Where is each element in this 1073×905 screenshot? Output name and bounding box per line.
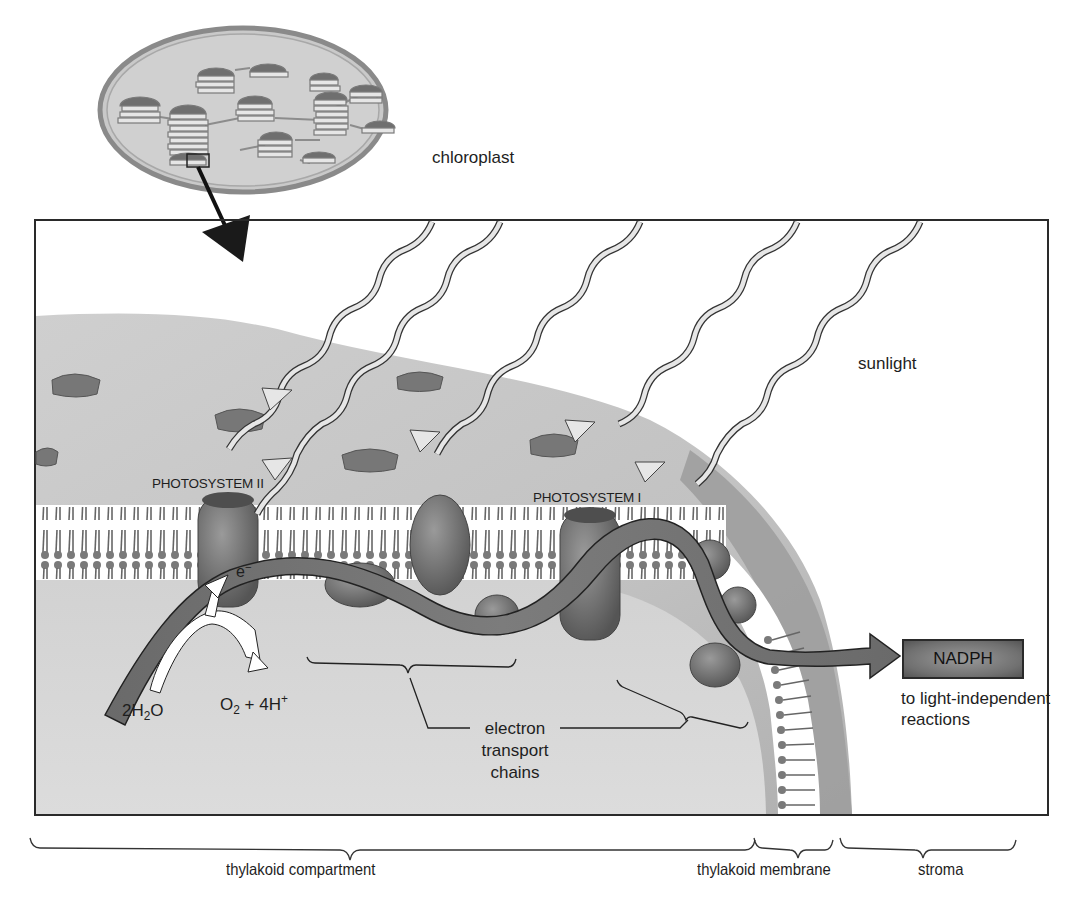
chloroplast-label: chloroplast — [432, 148, 514, 168]
nadph-box: NADPH — [902, 639, 1024, 679]
region-label-thylakoid-membrane: thylakoid membrane — [697, 860, 831, 879]
water-label: 2H2O — [122, 701, 164, 721]
nadph-label: NADPH — [933, 649, 993, 669]
oxygen-protons-label: O2 + 4H+ — [220, 695, 288, 715]
region-label-thylakoid-compartment: thylakoid compartment — [226, 860, 375, 879]
chloroplast-inset — [100, 28, 395, 192]
photosynthesis-diagram: chloroplast sunlight PHOTOSYSTEM II PHOT… — [0, 0, 1073, 905]
photosystem-i-label: PHOTOSYSTEM I — [533, 490, 641, 505]
region-braces — [30, 838, 1016, 860]
region-label-stroma: stroma — [918, 860, 963, 879]
electron-label: e− — [236, 563, 251, 581]
photosystem-ii-label: PHOTOSYSTEM II — [152, 476, 264, 491]
thylakoid-body — [36, 314, 852, 814]
light-independent-caption: to light-independent reactions — [901, 688, 1050, 730]
sunlight-label: sunlight — [858, 354, 917, 374]
electron-transport-chains-label: electron transport chains — [470, 718, 560, 784]
